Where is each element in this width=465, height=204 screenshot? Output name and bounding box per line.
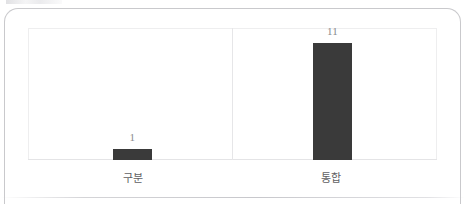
chart-screenshot: 1 11 구분 통합	[0, 0, 465, 204]
cropped-text-artifact	[6, 0, 62, 4]
x-axis-label-gubun: 구분	[90, 172, 176, 186]
category-divider-line	[232, 28, 233, 160]
x-axis-label-tonghap: 통합	[288, 172, 374, 186]
bottom-separator-rule	[0, 197, 465, 198]
bar-gubun[interactable]	[113, 149, 152, 160]
bar-tonghap[interactable]	[313, 43, 352, 160]
bar-value-label-gubun: 1	[113, 131, 152, 143]
bar-value-label-tonghap: 11	[313, 25, 352, 37]
